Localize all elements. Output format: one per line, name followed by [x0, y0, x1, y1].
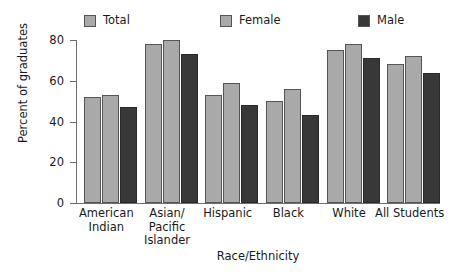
bar-female — [223, 83, 240, 203]
bar-male — [423, 73, 440, 203]
y-tick-label-40: 40 — [12, 115, 64, 129]
bar-chart: Total Female Male Percent of graduates 0… — [0, 0, 453, 277]
bar-female — [102, 95, 119, 203]
y-tick-label-wrap-80: 80 — [0, 40, 64, 41]
legend-item-female: Female — [220, 12, 281, 30]
bar-group — [266, 40, 319, 203]
bar-group — [327, 40, 380, 203]
bar-total — [84, 97, 101, 203]
bar-male — [120, 107, 137, 203]
bar-female — [405, 56, 422, 203]
bar-male — [363, 58, 380, 203]
bar-total — [266, 101, 283, 203]
y-tick-0 — [70, 203, 77, 204]
legend-swatch-female — [220, 15, 232, 27]
bar-male — [181, 54, 198, 203]
legend-swatch-total — [84, 15, 96, 27]
y-tick-label-0: 0 — [12, 196, 64, 210]
x-tick-label: All Students — [370, 207, 450, 221]
y-tick-label-20: 20 — [12, 155, 64, 169]
x-axis-line — [76, 203, 440, 204]
legend-label-female: Female — [239, 15, 281, 27]
bar-group — [387, 40, 440, 203]
bar-group — [145, 40, 198, 203]
bar-group — [84, 40, 137, 203]
bar-female — [284, 89, 301, 203]
bar-group — [205, 40, 258, 203]
legend-item-total: Total — [84, 12, 130, 30]
bar-total — [205, 95, 222, 203]
bar-female — [345, 44, 362, 203]
legend-label-total: Total — [103, 15, 130, 27]
y-tick-label-wrap-20: 20 — [0, 162, 64, 163]
bar-female — [163, 40, 180, 203]
chart-legend: Total Female Male — [0, 12, 453, 32]
plot-area — [76, 40, 436, 203]
y-tick-label-wrap-40: 40 — [0, 122, 64, 123]
y-tick-label-wrap-0: 0 — [0, 203, 64, 204]
x-axis-label: Race/Ethnicity — [76, 249, 440, 263]
legend-swatch-male — [358, 15, 370, 27]
y-tick-label-80: 80 — [12, 33, 64, 47]
bar-total — [327, 50, 344, 203]
bar-total — [387, 64, 404, 203]
bar-total — [145, 44, 162, 203]
y-tick-label-60: 60 — [12, 74, 64, 88]
legend-label-male: Male — [377, 15, 404, 27]
bar-male — [302, 115, 319, 203]
legend-item-male: Male — [358, 12, 404, 30]
y-tick-label-wrap-60: 60 — [0, 81, 64, 82]
bar-male — [241, 105, 258, 203]
